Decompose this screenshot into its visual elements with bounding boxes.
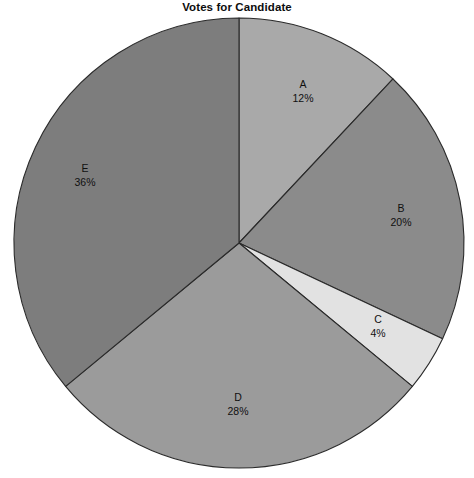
slice-category-text: C [370,313,385,327]
pie-slice-label-a: A12% [292,78,313,105]
slice-category-text: E [74,162,95,176]
slice-value-text: 36% [74,175,95,189]
pie-slice-label-d: D28% [227,391,248,418]
slice-category-text: D [227,391,248,405]
slice-value-text: 4% [370,326,385,340]
slice-category-text: A [292,78,313,92]
slice-category-text: B [390,202,411,216]
pie-slice-label-c: C4% [370,313,385,340]
slice-value-text: 20% [390,215,411,229]
slice-value-text: 12% [292,91,313,105]
pie-chart-figure: Votes for Candidate A12%B20%C4%D28%E36% [0,0,474,478]
slice-value-text: 28% [227,404,248,418]
pie-slice-label-e: E36% [74,162,95,189]
pie-slice-label-b: B20% [390,202,411,229]
